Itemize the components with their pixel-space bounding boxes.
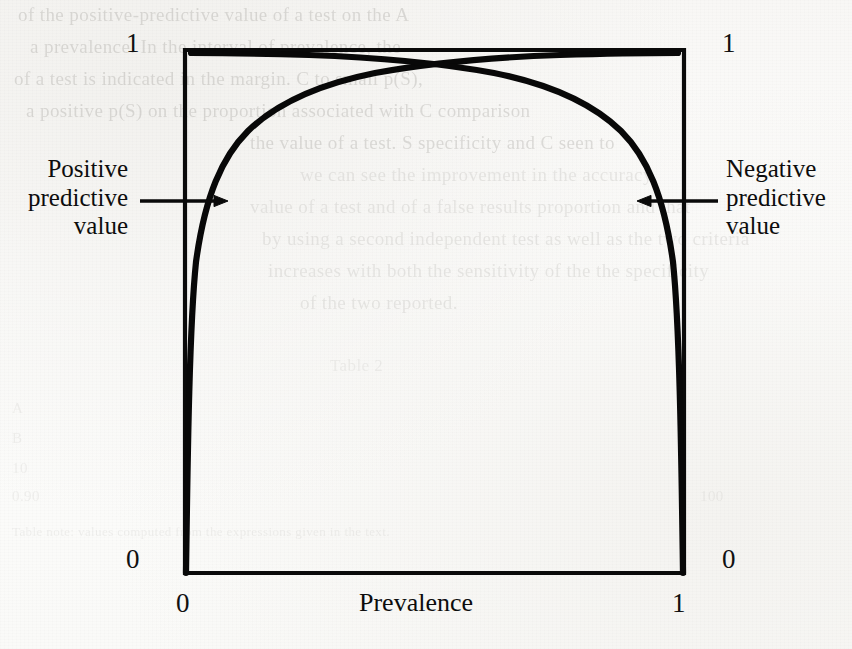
axis-frame [185,50,684,573]
ppv-curve [186,53,678,573]
npv-callout-line-2: predictive [726,184,852,213]
ppv-callout-line-1: Positive [0,155,128,184]
x-axis-min-tick: 0 [176,590,190,617]
predictive-value-figure: 1 0 1 0 0 1 Prevalence Positive predicti… [0,0,852,649]
y-axis-right-min-tick: 0 [722,546,736,573]
npv-callout-line-1: Negative [726,155,852,184]
ppv-callout-label: Positive predictive value [0,155,128,241]
x-axis-max-tick: 1 [672,590,686,617]
npv-curve [191,53,683,573]
npv-callout-line-3: value [726,212,852,241]
y-axis-left-min-tick: 0 [126,546,140,573]
npv-callout-arrow [637,195,718,206]
ppv-callout-line-2: predictive [0,184,128,213]
y-axis-right-max-tick: 1 [722,30,736,57]
ppv-callout-line-3: value [0,212,128,241]
y-axis-left-max-tick: 1 [126,30,140,57]
x-axis-title: Prevalence [359,590,473,616]
npv-callout-label: Negative predictive value [726,155,852,241]
